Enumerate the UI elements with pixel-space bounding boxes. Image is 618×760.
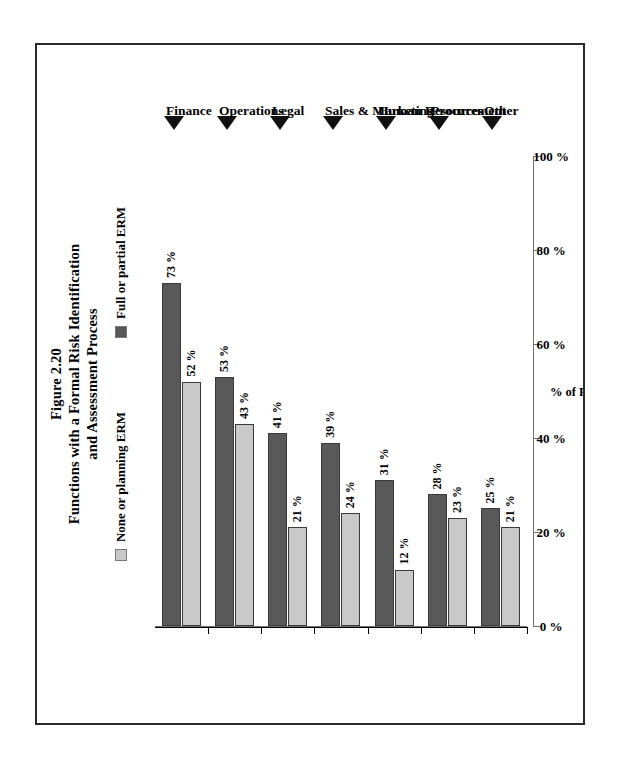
category-axis-tick [474,627,475,634]
value-axis-tick-label: 60 % [536,337,565,353]
legend-item-none_or_planning: None or planning ERM [113,412,129,561]
category-axis-tick [421,627,422,634]
bar-sales-marketing-none-or-planning-erm [341,513,360,626]
figure-page: Figure 2.20 Functions with a Formal Risk… [0,0,618,760]
bar-group-legal: 41 %21 % [261,156,314,626]
category-axis-tick [368,627,369,634]
category-label: Legal [272,103,304,119]
bar-value-label: 39 % [321,411,340,438]
figure-title-line-2: and Assessment Process [83,45,101,723]
bar-group-finance: 73 %52 % [155,156,208,626]
chart-canvas: Figure 2.20 Functions with a Formal Risk… [37,45,583,723]
category-axis-tick [314,627,315,634]
bar-value-label: 43 % [235,392,254,419]
bar-value-label: 41 % [268,401,287,428]
value-axis: % of Respondents 0 %20 %40 %60 %80 %100 … [533,157,579,627]
bar-value-label: 53 % [215,345,234,372]
category-axis-tick [527,627,528,634]
bar-value-label: 21 % [288,495,307,522]
legend-swatch-icon [115,326,127,338]
bar-other-full-or-partial-erm [481,509,500,627]
bar-human-resources-none-or-planning-erm [395,570,414,626]
chart-rotation-container: Figure 2.20 Functions with a Formal Risk… [37,45,583,723]
figure-title: Figure 2.20 Functions with a Formal Risk… [47,45,101,723]
bar-human-resources-full-or-partial-erm [375,480,394,626]
bar-value-label: 28 % [428,462,447,489]
bar-legal-none-or-planning-erm [288,527,307,626]
bar-value-label: 21 % [501,495,520,522]
chart-legend: None or planning ERMFull or partial ERM [113,45,129,723]
category-axis-tick [208,627,209,634]
bar-value-label: 73 % [162,251,181,278]
legend-item-full_or_partial: Full or partial ERM [113,207,129,338]
bar-finance-none-or-planning-erm [182,382,201,626]
figure-border: Figure 2.20 Functions with a Formal Risk… [35,43,585,725]
bar-procurement-none-or-planning-erm [448,518,467,626]
value-axis-title: % of Respondents [364,385,584,400]
value-axis-tick-label: 100 % [533,149,569,165]
bar-finance-full-or-partial-erm [162,283,181,626]
value-axis-baseline [155,626,527,627]
value-axis-tick-label: 0 % [540,619,563,635]
figure-title-line-1: Functions with a Formal Risk Identificat… [65,45,83,723]
bar-group-sales-marketing: 39 %24 % [314,156,367,626]
category-label: Finance [166,103,212,119]
category-label: Other [484,103,519,119]
figure-number: Figure 2.20 [47,45,65,723]
bar-value-label: 12 % [395,538,414,565]
legend-label: Full or partial ERM [113,207,129,319]
bar-procurement-full-or-partial-erm [428,494,447,626]
bar-value-label: 25 % [481,477,500,504]
value-axis-tick-label: 40 % [536,431,565,447]
bar-value-label: 24 % [341,481,360,508]
legend-label: None or planning ERM [113,412,129,542]
bar-value-label: 23 % [448,486,467,513]
bar-operations-none-or-planning-erm [235,424,254,626]
category-axis-tick [261,627,262,634]
bar-operations-full-or-partial-erm [215,377,234,626]
category-axis-line [155,627,527,628]
bar-group-operations: 53 %43 % [208,156,261,626]
bar-value-label: 52 % [182,350,201,377]
bar-other-none-or-planning-erm [501,527,520,626]
bar-sales-marketing-full-or-partial-erm [321,443,340,626]
value-axis-tick-label: 80 % [536,243,565,259]
legend-swatch-icon [115,549,127,561]
bar-value-label: 31 % [375,448,394,475]
bar-legal-full-or-partial-erm [268,433,287,626]
value-axis-tick-label: 20 % [536,525,565,541]
